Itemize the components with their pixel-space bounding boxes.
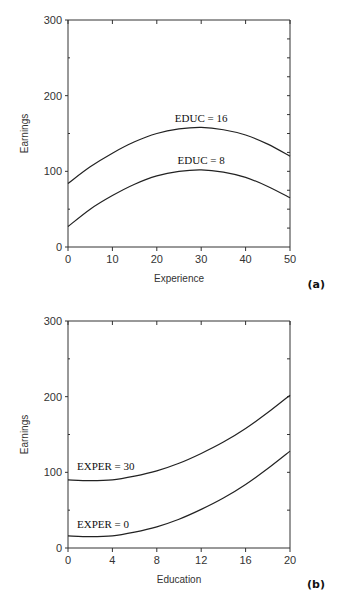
y-tick-label: 200 xyxy=(44,90,62,102)
x-tick-label: 0 xyxy=(65,554,71,566)
x-tick-label: 0 xyxy=(65,253,71,265)
x-tick-label: 40 xyxy=(239,253,251,265)
curve-label: EDUC = 8 xyxy=(178,154,226,166)
chart-panel-b: 0481216200100200300EducationEarnings(b)E… xyxy=(19,315,325,591)
x-axis-label: Experience xyxy=(154,273,204,284)
x-tick-label: 50 xyxy=(284,253,296,265)
y-tick-label: 100 xyxy=(44,165,62,177)
panel-label: (b) xyxy=(307,578,325,591)
y-tick-label: 0 xyxy=(56,241,62,253)
y-tick-label: 0 xyxy=(56,542,62,554)
y-tick-label: 300 xyxy=(44,14,62,26)
x-tick-label: 16 xyxy=(239,554,251,566)
curve-label: EXPER = 0 xyxy=(77,518,130,530)
y-axis-label: Earnings xyxy=(19,415,30,454)
y-tick-label: 200 xyxy=(44,391,62,403)
y-axis-label: Earnings xyxy=(19,114,30,153)
curve-label: EDUC = 16 xyxy=(175,112,228,124)
x-tick-label: 12 xyxy=(195,554,207,566)
x-tick-label: 30 xyxy=(195,253,207,265)
y-tick-label: 100 xyxy=(44,466,62,478)
panel-label: (a) xyxy=(308,278,325,291)
y-tick-label: 300 xyxy=(44,315,62,327)
x-axis-label: Education xyxy=(157,574,201,585)
curve-label: EXPER = 30 xyxy=(77,460,135,472)
x-tick-label: 4 xyxy=(109,554,115,566)
x-tick-label: 8 xyxy=(154,554,160,566)
x-tick-label: 10 xyxy=(106,253,118,265)
series-line xyxy=(68,170,290,227)
x-tick-label: 20 xyxy=(151,253,163,265)
x-tick-label: 20 xyxy=(284,554,296,566)
figure: 010203040500100200300ExperienceEarnings(… xyxy=(0,0,339,601)
chart-panel-a: 010203040500100200300ExperienceEarnings(… xyxy=(19,14,325,291)
